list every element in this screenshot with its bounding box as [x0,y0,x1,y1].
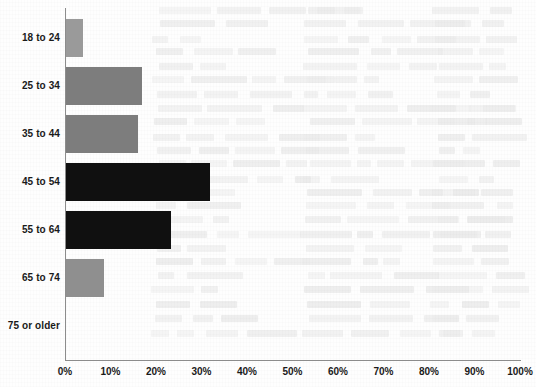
x-axis-tick-label: 50% [282,366,302,378]
x-axis-tick-label: 100% [507,366,533,378]
x-axis-tick-label: 60% [328,366,348,378]
x-axis-tick-labels: 0%10%20%30%40%50%60%70%80%90%100% [0,366,536,382]
y-axis-label: 75 or older [0,320,60,331]
x-axis-tick-label: 90% [464,366,484,378]
bar [66,259,104,297]
y-axis-label: 25 to 34 [0,80,60,91]
x-axis-tick-label: 40% [237,366,257,378]
plot-area [65,8,521,361]
bar-chart: 18 to 2425 to 3435 to 4445 to 5455 to 64… [0,0,536,387]
y-axis-label: 35 to 44 [0,128,60,139]
bar [66,163,210,201]
x-axis-tick-label: 80% [419,366,439,378]
y-axis-label: 45 to 54 [0,176,60,187]
y-axis-label: 18 to 24 [0,32,60,43]
bar [66,115,138,153]
x-axis-tick-label: 20% [146,366,166,378]
y-axis-label: 65 to 74 [0,272,60,283]
x-axis-tick-label: 0% [58,366,72,378]
bar [66,19,83,57]
y-axis-labels: 18 to 2425 to 3435 to 4445 to 5455 to 64… [0,8,60,360]
bar [66,211,171,249]
x-axis-tick-label: 30% [191,366,211,378]
x-axis-tick-label: 70% [373,366,393,378]
y-axis-label: 55 to 64 [0,224,60,235]
x-axis-tick-label: 10% [100,366,120,378]
bar [66,67,142,105]
